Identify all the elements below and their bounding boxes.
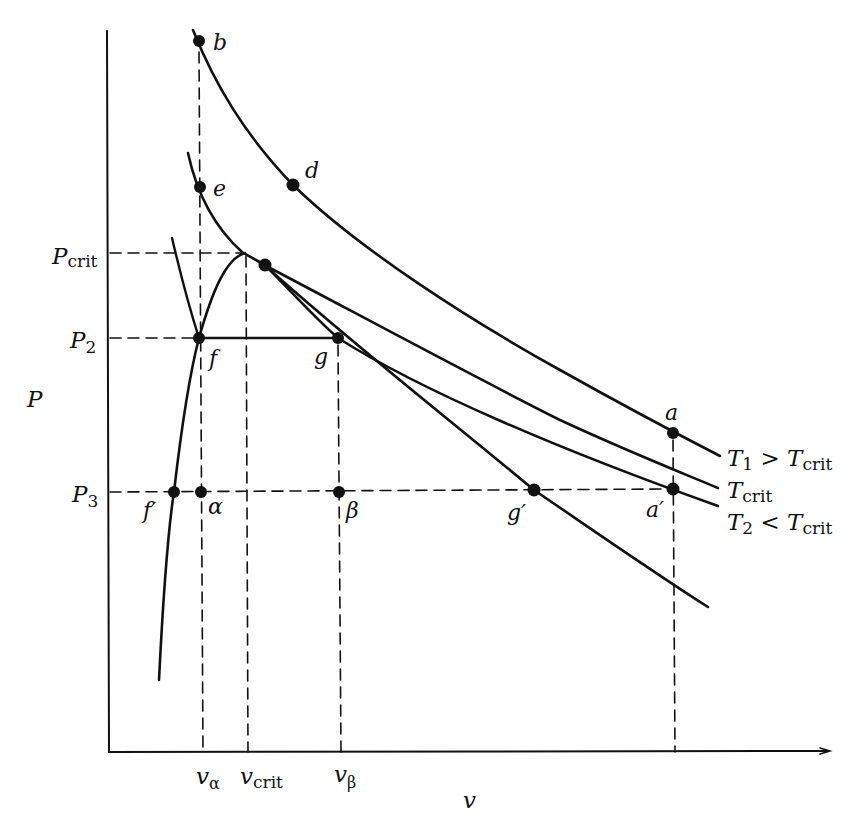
point-f-prime	[168, 486, 180, 498]
y-axis	[107, 31, 109, 752]
pv-diagram: b d e f g a a′ f′ g′ α β P Pcrit P2 P3 v…	[0, 0, 862, 833]
y-tick-p3: P3	[71, 481, 98, 511]
v-crit-guide	[246, 256, 248, 752]
point-a-prime	[667, 483, 680, 496]
label-g-prime: g′	[507, 500, 526, 525]
point-crit-isotherm	[259, 259, 272, 272]
isotherm-tcrit	[188, 153, 718, 488]
point-d	[287, 179, 300, 192]
label-alpha: α	[208, 494, 223, 519]
y-tick-p2: P2	[69, 327, 96, 357]
label-isotherm-t1: T1 > Tcrit	[727, 445, 833, 474]
label-f-prime: f′	[141, 498, 156, 523]
isotherm-t1	[193, 30, 720, 456]
point-f	[193, 332, 205, 344]
x-tick-v-beta: vβ	[334, 761, 356, 792]
label-e: e	[213, 176, 226, 201]
point-g	[332, 332, 344, 344]
x-axis-label: v	[463, 787, 476, 813]
y-tick-p-crit: Pcrit	[51, 243, 98, 271]
point-alpha	[195, 486, 207, 498]
isotherm-t2-unstable-branch	[270, 270, 708, 607]
v-alpha-guide	[199, 52, 203, 752]
x-tick-v-alpha: vα	[196, 763, 220, 793]
point-beta	[333, 486, 345, 498]
p3-guide	[110, 489, 673, 492]
x-tick-v-crit: vcrit	[240, 763, 283, 792]
point-e	[194, 181, 206, 193]
label-a-prime: a′	[646, 497, 664, 522]
point-g-prime	[528, 484, 541, 497]
label-beta: β	[345, 498, 359, 523]
label-isotherm-t2: T2 < Tcrit	[727, 509, 833, 538]
label-a: a	[665, 400, 678, 425]
label-b: b	[213, 30, 227, 55]
point-b	[193, 35, 205, 47]
y-axis-label: P	[26, 386, 43, 412]
label-d: d	[305, 158, 319, 183]
label-f: f	[207, 346, 221, 371]
v-beta-guide	[338, 345, 341, 752]
x-axis	[109, 751, 828, 752]
point-a	[667, 427, 679, 439]
label-isotherm-tcrit: Tcrit	[727, 477, 772, 506]
label-g: g	[314, 344, 328, 369]
